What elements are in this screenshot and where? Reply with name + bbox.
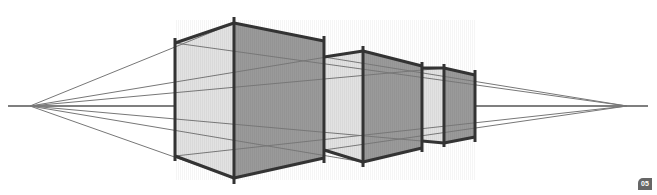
perspective-diagram [0,0,657,195]
page-badge: 05 [638,178,652,190]
